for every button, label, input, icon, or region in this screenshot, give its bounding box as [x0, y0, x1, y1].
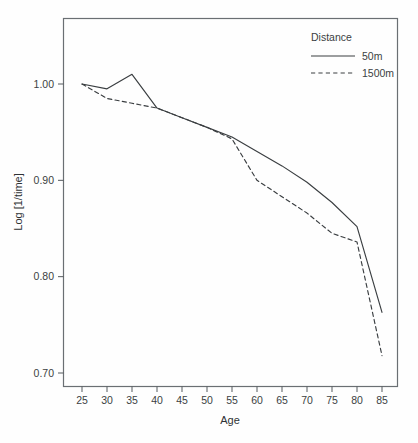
x-tick-label: 70: [301, 394, 313, 406]
x-tick-label: 25: [76, 394, 88, 406]
legend-label-1500m: 1500m: [362, 67, 394, 79]
x-tick-label: 40: [151, 394, 163, 406]
y-tick-label: 0.90: [34, 174, 55, 186]
x-axis-title: Age: [220, 414, 240, 426]
y-axis-title: Log [1/time]: [12, 173, 24, 230]
x-tick-label: 55: [226, 394, 238, 406]
x-tick-label: 35: [126, 394, 138, 406]
y-tick-label: 1.00: [34, 78, 55, 90]
x-tick-label: 50: [201, 394, 213, 406]
x-tick-label: 45: [176, 394, 188, 406]
x-tick-label: 85: [376, 394, 388, 406]
x-tick-label: 65: [276, 394, 288, 406]
x-tick-label: 80: [351, 394, 363, 406]
legend-title: Distance: [311, 31, 352, 43]
x-tick-label: 30: [101, 394, 113, 406]
legend-label-50m: 50m: [362, 50, 383, 62]
y-tick-label: 0.70: [34, 367, 55, 379]
y-tick-label: 0.80: [34, 270, 55, 282]
x-tick-label: 75: [326, 394, 338, 406]
chart-container: 1.000.900.800.70 25303540455055606570758…: [0, 0, 418, 443]
chart-background: [0, 0, 418, 443]
line-chart: 1.000.900.800.70 25303540455055606570758…: [0, 0, 418, 443]
x-tick-label: 60: [251, 394, 263, 406]
